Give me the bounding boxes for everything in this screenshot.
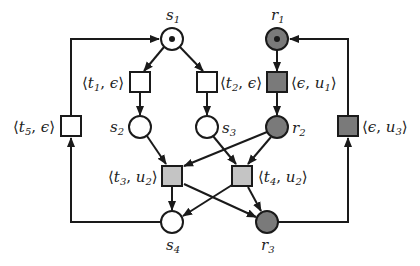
- label-s1: s1: [166, 6, 180, 25]
- arc-s2-t3u2: [147, 136, 166, 164]
- label-s3: s3: [222, 119, 236, 138]
- label-t1e: ⟨t1, ϵ⟩: [82, 74, 124, 93]
- arc-t3u2-r3: [184, 184, 256, 217]
- transition-t4u2[interactable]: [232, 166, 252, 186]
- token-icon: [169, 36, 175, 42]
- arc-s1-t1e: [144, 47, 164, 71]
- places: [129, 28, 288, 233]
- label-t3u2: ⟨t3, u2⟩: [108, 168, 158, 187]
- label-t4u2: ⟨t4, u2⟩: [258, 168, 308, 187]
- transition-t1e[interactable]: [130, 72, 150, 92]
- transition-eu3[interactable]: [338, 116, 358, 136]
- label-t5e: ⟨t5, ϵ⟩: [13, 118, 55, 137]
- arc-t4u2-s4: [183, 185, 232, 216]
- arc-t4u2-r3: [248, 187, 261, 211]
- arc-s1-t2e: [180, 47, 203, 71]
- place-r2[interactable]: [266, 116, 288, 138]
- place-s3[interactable]: [196, 116, 218, 138]
- label-eu1: ⟨ϵ, u1⟩: [291, 74, 337, 93]
- place-r3[interactable]: [256, 211, 278, 233]
- place-r1[interactable]: [266, 28, 288, 50]
- arc-r2-t4u2: [248, 137, 271, 164]
- transition-t5e[interactable]: [61, 116, 81, 136]
- arc-r2-t3u2: [184, 132, 267, 166]
- label-r1: r1: [271, 6, 285, 25]
- petri-net-diagram: s1 s2 s3 s4 r1 r2 r3 ⟨t1, ϵ⟩ ⟨t2, ϵ⟩ ⟨t5…: [0, 0, 420, 266]
- label-r3: r3: [261, 236, 275, 255]
- place-s2[interactable]: [129, 116, 151, 138]
- transition-t3u2[interactable]: [162, 166, 182, 186]
- label-s2: s2: [110, 118, 124, 137]
- transition-t2e[interactable]: [197, 72, 217, 92]
- transition-eu1[interactable]: [267, 72, 287, 92]
- label-t2e: ⟨t2, ϵ⟩: [220, 74, 262, 93]
- place-s1[interactable]: [161, 28, 183, 50]
- place-s4[interactable]: [161, 211, 183, 233]
- label-eu3: ⟨ϵ, u3⟩: [362, 118, 408, 137]
- token-icon: [274, 36, 280, 42]
- label-s4: s4: [166, 236, 180, 255]
- label-r2: r2: [292, 119, 306, 138]
